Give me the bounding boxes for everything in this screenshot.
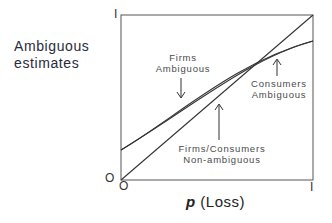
x-tick-origin: O: [119, 179, 128, 193]
arrow-consumers: [273, 59, 281, 76]
annotation-consumers-ambiguous: Consumers Ambiguous: [245, 78, 313, 100]
plot-area: [0, 0, 332, 223]
arrow-non-ambiguous: [215, 104, 223, 140]
x-axis-label-text: (Loss): [200, 193, 245, 210]
annotation-nonamb-line2: Non-ambiguous: [172, 154, 272, 165]
x-axis-label: p (Loss): [186, 193, 245, 210]
annotation-firms-ambiguous: Firms Ambiguous: [148, 52, 218, 74]
x-tick-right: I: [310, 180, 313, 194]
x-axis-variable: p: [186, 193, 196, 210]
annotation-consumers-line2: Ambiguous: [245, 89, 313, 100]
annotation-firms-line1: Firms: [148, 52, 218, 63]
annotation-firms-line2: Ambiguous: [148, 63, 218, 74]
annotation-non-ambiguous: Firms/Consumers Non-ambiguous: [172, 143, 272, 165]
arrow-firms: [177, 78, 185, 98]
annotation-nonamb-line1: Firms/Consumers: [172, 143, 272, 154]
y-tick-origin: O: [105, 171, 114, 185]
annotation-consumers-line1: Consumers: [245, 78, 313, 89]
y-tick-top: I: [114, 7, 117, 21]
